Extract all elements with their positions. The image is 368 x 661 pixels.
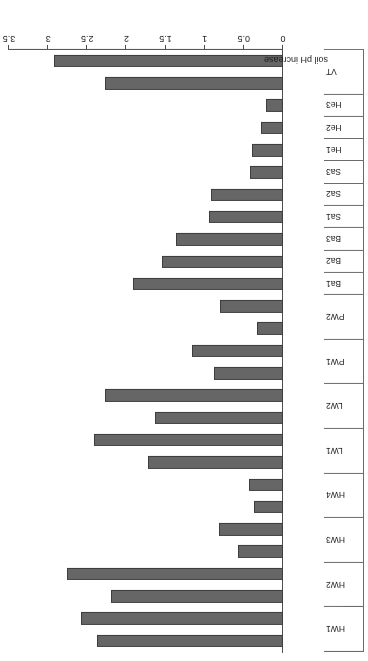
category-cell: HW3 [324, 518, 364, 563]
category-label: PW1 [326, 357, 344, 367]
category-label: Ba1 [326, 279, 341, 289]
category-label: Sa3 [326, 167, 341, 177]
bar [155, 412, 283, 424]
category-cell: Ba2 [324, 251, 364, 273]
category-cell: Sa3 [324, 162, 364, 184]
bar [111, 590, 283, 602]
category-cell: HW2 [324, 563, 364, 608]
value-axis-tick-label: 2.5 [72, 34, 102, 44]
value-axis-tick-label: 2 [111, 34, 141, 44]
value-axis-tick-label: 1.5 [151, 34, 181, 44]
bar [261, 122, 283, 134]
category-label: VT [326, 67, 337, 77]
bar [192, 345, 283, 357]
value-axis-tick-label: 0 [268, 34, 298, 44]
bar [105, 389, 283, 401]
category-label: Sa1 [326, 212, 341, 222]
value-axis-tick-label: 3.5 [0, 34, 24, 44]
bar [219, 523, 283, 535]
category-cell: He3 [324, 95, 364, 117]
bar [148, 456, 283, 468]
category-label: Sa2 [326, 189, 341, 199]
bar [81, 612, 283, 624]
bar [254, 501, 283, 513]
category-cell: PW2 [324, 295, 364, 340]
category-cell: LW1 [324, 429, 364, 474]
bar [67, 568, 283, 580]
category-cell: Sa1 [324, 206, 364, 228]
bar [162, 256, 283, 268]
bar [211, 189, 283, 201]
category-cell: Ba1 [324, 273, 364, 295]
category-label: HW2 [326, 580, 345, 590]
value-axis-tick-label: 1 [190, 34, 220, 44]
category-label: HW1 [326, 624, 345, 634]
category-label: He1 [326, 145, 342, 155]
bar [220, 300, 283, 312]
category-cell: He2 [324, 117, 364, 139]
category-label: He2 [326, 123, 342, 133]
category-cell: Ba3 [324, 228, 364, 250]
category-label: Ba2 [326, 256, 341, 266]
value-axis-tick-label: 3 [33, 34, 63, 44]
value-axis-tick-label: 0.5 [229, 34, 259, 44]
bar [257, 322, 283, 334]
bar [252, 144, 283, 156]
value-axis-tick [125, 45, 126, 50]
value-axis-tick [204, 45, 205, 50]
category-cell: PW1 [324, 340, 364, 385]
bar [266, 100, 283, 112]
value-axis-tick [282, 45, 283, 50]
category-label: Ba3 [326, 234, 341, 244]
category-label: LW1 [326, 446, 343, 456]
category-table-bottom-rule [324, 49, 364, 50]
bar [238, 545, 283, 557]
category-label: HW3 [326, 535, 345, 545]
value-axis-tick [47, 45, 48, 50]
category-label: HW4 [326, 490, 345, 500]
value-axis-tick [8, 45, 9, 50]
category-cell: HW4 [324, 474, 364, 519]
value-axis-tick [243, 45, 244, 50]
category-label: PW2 [326, 312, 344, 322]
bar [133, 278, 283, 290]
bar [214, 367, 283, 379]
category-label: He3 [326, 100, 342, 110]
bar [176, 233, 283, 245]
value-axis-tick [86, 45, 87, 50]
value-axis-title: soil pH increase [206, 55, 368, 65]
value-axis-tick [165, 45, 166, 50]
bar [250, 166, 283, 178]
category-cell: LW2 [324, 384, 364, 429]
bar [94, 434, 283, 446]
category-cell: He1 [324, 139, 364, 161]
bar [209, 211, 283, 223]
bar [105, 77, 283, 89]
category-cell: Sa2 [324, 184, 364, 206]
category-label: LW2 [326, 401, 343, 411]
bar [249, 479, 283, 491]
bar [97, 635, 283, 647]
category-cell: HW1 [324, 607, 364, 652]
